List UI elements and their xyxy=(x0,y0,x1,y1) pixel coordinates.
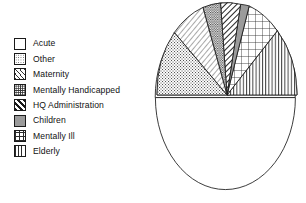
legend-swatch-maternity xyxy=(14,68,26,80)
legend-item-maternity: Maternity xyxy=(14,67,146,82)
legend-label-other: Other xyxy=(33,55,55,64)
legend-label-acute: Acute xyxy=(33,39,55,48)
legend-item-children: Children xyxy=(14,113,146,128)
legend-label-mentally-handicapped: Mentally Handicapped xyxy=(33,86,120,95)
pie-svg xyxy=(150,0,306,203)
chart-legend: Acute Other Maternity Mentally Handicapp… xyxy=(14,36,146,159)
legend-swatch-hq-administration xyxy=(14,99,26,111)
legend-item-acute: Acute xyxy=(14,36,146,51)
legend-label-hq-administration: HQ Administration xyxy=(33,101,104,110)
legend-label-mentally-ill: Mentally Ill xyxy=(33,132,75,141)
pie-plot-area xyxy=(150,0,306,203)
legend-label-children: Children xyxy=(33,116,66,125)
legend-swatch-children xyxy=(14,115,26,127)
legend-item-mentally-ill: Mentally Ill xyxy=(14,128,146,143)
legend-swatch-mentally-handicapped xyxy=(14,84,26,96)
legend-label-elderly: Elderly xyxy=(33,147,60,156)
legend-swatch-mentally-ill xyxy=(14,130,26,142)
legend-item-mentally-handicapped: Mentally Handicapped xyxy=(14,82,146,97)
legend-swatch-elderly xyxy=(14,145,26,157)
pie-slice-acute-wedge xyxy=(155,98,295,190)
legend-label-maternity: Maternity xyxy=(33,70,69,79)
legend-item-hq-administration: HQ Administration xyxy=(14,98,146,113)
pie-chart-figure: Acute Other Maternity Mentally Handicapp… xyxy=(0,0,306,203)
legend-item-elderly: Elderly xyxy=(14,144,146,159)
legend-item-other: Other xyxy=(14,51,146,66)
legend-swatch-other xyxy=(14,53,26,65)
legend-swatch-acute xyxy=(14,38,26,50)
